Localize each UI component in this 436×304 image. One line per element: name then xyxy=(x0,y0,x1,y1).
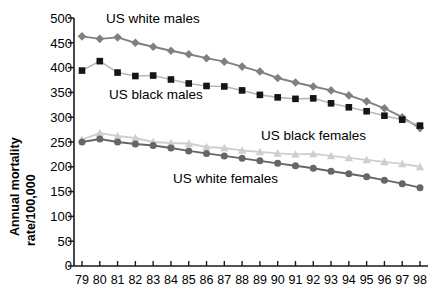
x-tick-label: 96 xyxy=(375,274,393,287)
x-tick-label: 88 xyxy=(233,274,251,287)
data-point xyxy=(310,165,317,172)
data-point xyxy=(221,152,228,159)
data-point xyxy=(220,57,229,66)
series-us-white-males xyxy=(78,32,425,132)
data-point xyxy=(327,86,336,95)
x-tick-label: 94 xyxy=(340,274,358,287)
data-point xyxy=(184,50,193,59)
data-point xyxy=(399,116,406,123)
series-us-black-females xyxy=(78,129,424,170)
data-point xyxy=(362,97,371,106)
x-tick-label: 80 xyxy=(91,274,109,287)
data-point xyxy=(363,108,370,115)
data-point xyxy=(417,122,424,129)
data-point xyxy=(79,67,86,74)
x-tick-label: 82 xyxy=(126,274,144,287)
data-point xyxy=(381,112,388,119)
data-point xyxy=(274,160,281,167)
data-point xyxy=(203,83,210,90)
data-point xyxy=(399,180,406,187)
data-point xyxy=(381,177,388,184)
data-point xyxy=(185,147,192,154)
x-tick-label: 98 xyxy=(411,274,429,287)
data-point xyxy=(131,39,140,48)
x-tick-label: 85 xyxy=(180,274,198,287)
x-tick-label: 81 xyxy=(109,274,127,287)
data-point xyxy=(168,76,175,83)
data-point xyxy=(256,67,265,76)
data-point xyxy=(328,168,335,175)
x-tick-label: 87 xyxy=(215,274,233,287)
series-annotation-white-males: US white males xyxy=(106,11,200,26)
series-annotation-black-females: US black females xyxy=(261,128,366,143)
data-point xyxy=(132,73,139,80)
data-point xyxy=(257,92,264,99)
data-point xyxy=(239,155,246,162)
data-point xyxy=(345,91,354,100)
data-point xyxy=(202,54,211,63)
data-point xyxy=(96,136,103,143)
plot-area xyxy=(0,0,436,304)
data-point xyxy=(95,35,104,44)
data-point xyxy=(256,157,263,164)
series-annotation-white-females: US white females xyxy=(173,171,278,186)
data-point xyxy=(167,144,174,151)
x-tick-label: 89 xyxy=(251,274,269,287)
data-point xyxy=(309,82,318,91)
data-point xyxy=(292,162,299,169)
data-point xyxy=(221,83,228,90)
data-point xyxy=(96,58,103,65)
data-point xyxy=(150,142,157,149)
data-point xyxy=(113,33,122,42)
series-annotation-black-males: US black males xyxy=(109,87,203,102)
data-point xyxy=(114,139,121,146)
data-point xyxy=(291,78,300,87)
data-point xyxy=(150,72,157,79)
x-tick-label: 79 xyxy=(73,274,91,287)
x-tick-label: 95 xyxy=(358,274,376,287)
data-point xyxy=(79,139,86,146)
data-point xyxy=(345,170,352,177)
data-point xyxy=(274,94,281,101)
data-point xyxy=(149,42,158,51)
data-point xyxy=(292,96,299,103)
data-point xyxy=(185,80,192,87)
data-point xyxy=(328,100,335,107)
x-tick-label: 97 xyxy=(393,274,411,287)
data-point xyxy=(132,140,139,147)
x-tick-label: 90 xyxy=(269,274,287,287)
data-point xyxy=(380,104,389,113)
x-tick-label: 84 xyxy=(162,274,180,287)
data-point xyxy=(310,95,317,102)
data-point xyxy=(346,104,353,111)
data-point xyxy=(114,69,121,76)
x-tick-label: 92 xyxy=(304,274,322,287)
data-point xyxy=(167,46,176,55)
data-point xyxy=(203,150,210,157)
data-point xyxy=(238,62,247,71)
x-tick-label: 91 xyxy=(286,274,304,287)
x-tick-label: 83 xyxy=(144,274,162,287)
x-tick-label: 86 xyxy=(198,274,216,287)
data-point xyxy=(78,32,87,41)
x-tick-label: 93 xyxy=(322,274,340,287)
mortality-line-chart: Annual mortality rate/100,000 500 450 40… xyxy=(0,0,436,304)
data-point xyxy=(239,87,246,94)
data-point xyxy=(363,173,370,180)
data-point xyxy=(417,184,424,191)
data-point xyxy=(273,74,282,83)
